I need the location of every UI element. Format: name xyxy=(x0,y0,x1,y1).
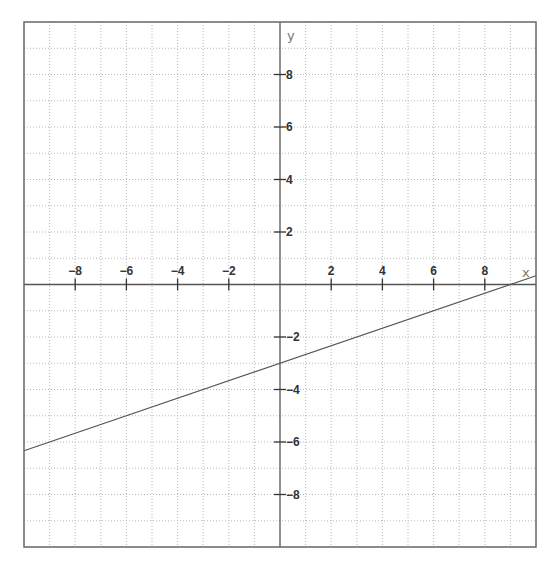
y-tick-label: 2 xyxy=(286,225,293,239)
x-tick-label: 6 xyxy=(430,264,437,278)
y-tick-label: −4 xyxy=(286,383,300,397)
x-tick-label: 4 xyxy=(379,264,386,278)
y-tick-label: −8 xyxy=(286,488,300,502)
y-tick-label: −2 xyxy=(286,330,300,344)
y-tick-label: −6 xyxy=(286,435,300,449)
x-tick-label: 8 xyxy=(481,264,488,278)
x-tick-label: 2 xyxy=(328,264,335,278)
y-tick-label: 6 xyxy=(286,120,293,134)
x-tick-label: −6 xyxy=(120,264,134,278)
x-tick-label: −2 xyxy=(222,264,236,278)
x-axis-label: x xyxy=(522,265,530,280)
x-tick-label: −8 xyxy=(68,264,82,278)
coordinate-plane: −8−6−4−224688642−2−4−6−8 x y xyxy=(0,0,557,572)
y-axis-label: y xyxy=(287,28,295,43)
y-tick-label: 4 xyxy=(286,173,293,187)
x-tick-label: −4 xyxy=(171,264,185,278)
y-tick-label: 8 xyxy=(286,68,293,82)
